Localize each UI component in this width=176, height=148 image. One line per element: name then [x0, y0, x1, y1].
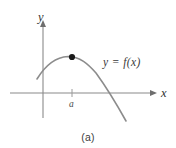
y-axis-label: y	[36, 10, 44, 24]
function-label: y = f(x)	[102, 56, 141, 69]
maximum-point-dot	[69, 54, 75, 60]
figure-caption: (a)	[0, 131, 176, 143]
x-axis-arrowhead	[150, 90, 157, 96]
figure-container: y x a y = f(x) (a)	[0, 0, 176, 148]
x-axis-label: x	[160, 86, 167, 100]
graph-canvas: y x a y = f(x)	[0, 0, 176, 148]
x-tick-label-a: a	[69, 99, 74, 109]
